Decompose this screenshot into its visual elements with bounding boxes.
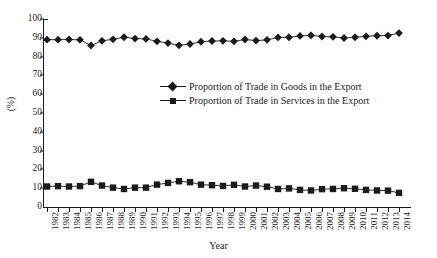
diamond-marker-icon [160, 81, 186, 93]
data-point-square [297, 187, 303, 193]
data-point-square [198, 181, 204, 187]
x-axis-tick-label: 1997 [216, 212, 225, 230]
data-point-diamond [186, 40, 194, 48]
x-axis-tick-label: 2005 [304, 212, 313, 230]
data-point-square [176, 178, 182, 184]
x-axis-tick-label: 2009 [348, 212, 357, 230]
data-point-diamond [373, 32, 381, 40]
data-point-square [319, 186, 325, 192]
x-axis-tick-label: 2003 [282, 212, 291, 230]
data-point-diamond [219, 37, 227, 45]
x-axis-title: Year [0, 240, 437, 251]
data-point-square [352, 186, 358, 192]
data-point-square [330, 186, 336, 192]
x-axis-tick-label: 2010 [359, 212, 368, 230]
data-point-diamond [109, 35, 117, 43]
x-axis-tick-label: 1987 [106, 212, 115, 230]
data-point-square [165, 180, 171, 186]
data-point-diamond [274, 34, 282, 42]
data-point-diamond [142, 35, 150, 43]
x-axis-tick-label: 1996 [205, 212, 214, 230]
x-axis-title-text: Year [209, 240, 227, 251]
data-point-square [286, 185, 292, 191]
data-point-diamond [87, 42, 95, 50]
data-point-diamond [351, 33, 359, 41]
data-point-square [341, 185, 347, 191]
data-point-square [275, 186, 281, 192]
data-point-square [363, 187, 369, 193]
x-axis-tick-label: 2013 [392, 212, 401, 230]
x-axis-tick-label: 1991 [150, 212, 159, 230]
data-point-diamond [384, 32, 392, 40]
x-axis-tick-label: 2002 [271, 212, 280, 230]
data-point-square [308, 187, 314, 193]
data-point-diamond [153, 37, 161, 45]
x-axis-tick-label: 1984 [73, 212, 82, 230]
chart-legend: Proportion of Trade in Goods in the Expo… [160, 80, 418, 108]
data-point-square [231, 182, 237, 188]
x-axis-tick-label: 1999 [238, 212, 247, 230]
data-point-diamond [164, 39, 172, 47]
data-point-square [132, 184, 138, 190]
data-point-square [154, 181, 160, 187]
x-axis-tick-label: 2014 [403, 212, 412, 230]
x-axis-tick-label: 1993 [172, 212, 181, 230]
data-point-diamond [175, 41, 183, 49]
x-axis-tick-label: 2004 [293, 212, 302, 230]
data-point-square [55, 183, 61, 189]
square-marker-icon [160, 95, 186, 107]
x-axis-tick-label: 2011 [370, 212, 379, 230]
data-point-square [143, 184, 149, 190]
data-point-diamond [285, 33, 293, 41]
data-point-diamond [318, 33, 326, 41]
series-canvas [44, 19, 410, 207]
data-point-diamond [252, 37, 260, 45]
data-point-diamond [263, 36, 271, 44]
legend-item-goods: Proportion of Trade in Goods in the Expo… [160, 80, 418, 93]
data-point-square [88, 179, 94, 185]
data-point-square [99, 182, 105, 188]
x-axis-tick-label: 1982 [51, 212, 60, 230]
data-point-square [77, 183, 83, 189]
x-axis-tick-label: 1983 [62, 212, 71, 230]
chart-figure: (%) 0102030405060708090100 1982198319841… [0, 0, 437, 258]
data-point-diamond [120, 33, 128, 41]
data-point-square [374, 187, 380, 193]
plot-area [44, 19, 410, 207]
data-point-square [66, 183, 72, 189]
series-goods [44, 29, 403, 49]
x-axis-tick-label: 1985 [84, 212, 93, 230]
data-point-diamond [340, 34, 348, 42]
data-point-square [209, 182, 215, 188]
x-axis-tick-label: 1986 [95, 212, 104, 230]
data-point-diamond [329, 33, 337, 41]
data-point-diamond [307, 31, 315, 39]
data-point-diamond [131, 35, 139, 43]
x-axis-tick-label: 1992 [161, 212, 170, 230]
y-axis-tick-label: 0 [37, 202, 42, 212]
data-point-square [187, 179, 193, 185]
data-point-diamond [54, 36, 62, 44]
data-point-diamond [76, 36, 84, 44]
y-axis-title-text: (%) [6, 96, 16, 110]
x-axis-tick-label: 1995 [194, 212, 203, 230]
x-axis-tick-label: 2008 [337, 212, 346, 230]
legend-label-goods: Proportion of Trade in Goods in the Expo… [186, 82, 362, 92]
data-point-square [253, 182, 259, 188]
data-point-diamond [98, 37, 106, 45]
data-point-square [44, 183, 50, 189]
data-point-diamond [362, 32, 370, 40]
data-point-square [396, 190, 402, 196]
legend-item-services: Proportion of Trade in Services in the E… [160, 94, 418, 107]
data-point-square [264, 183, 270, 189]
x-axis-tick-label: 2012 [381, 212, 390, 230]
x-axis-tick-label: 2006 [315, 212, 324, 230]
data-point-diamond [296, 32, 304, 40]
data-point-diamond [44, 36, 51, 44]
x-axis-tick-label: 2001 [260, 212, 269, 230]
data-point-square [121, 186, 127, 192]
data-point-diamond [197, 38, 205, 46]
data-point-square [220, 183, 226, 189]
series-services [44, 178, 402, 196]
legend-label-services: Proportion of Trade in Services in the E… [186, 96, 369, 106]
